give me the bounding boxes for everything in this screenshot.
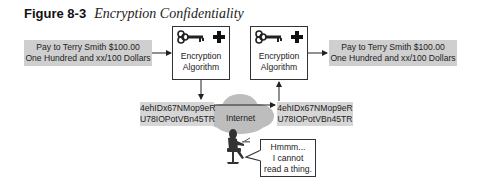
speech-bubble-tail (244, 148, 264, 168)
eavesdropper-speech-bubble: Hmmm... I cannot read a thing. (260, 139, 316, 177)
